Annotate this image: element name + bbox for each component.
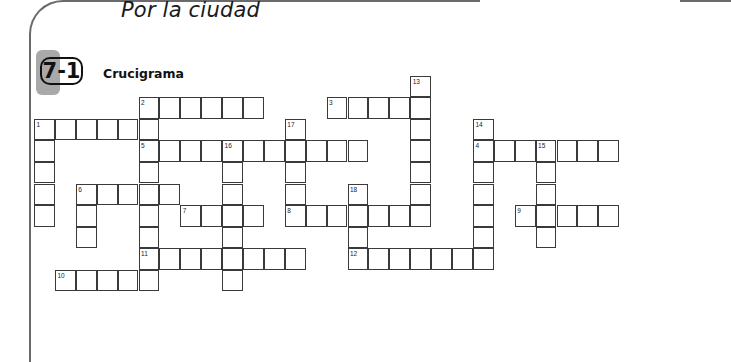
crossword-cell[interactable] [159, 97, 180, 119]
crossword-cell[interactable] [536, 162, 557, 184]
crossword-cell[interactable] [348, 205, 369, 227]
crossword-cell[interactable] [368, 205, 389, 227]
crossword-cell[interactable] [348, 227, 369, 249]
crossword-cell[interactable] [118, 184, 139, 206]
crossword-cell[interactable] [285, 248, 306, 270]
crossword-cell[interactable] [285, 162, 306, 184]
crossword-cell[interactable] [327, 140, 348, 162]
crossword-cell[interactable] [76, 205, 97, 227]
crossword-cell[interactable] [180, 248, 201, 270]
crossword-cell[interactable] [180, 140, 201, 162]
clue-number: 5 [141, 143, 145, 150]
crossword-cell[interactable] [264, 140, 285, 162]
crossword-cell[interactable] [222, 227, 243, 249]
crossword-cell[interactable] [598, 140, 619, 162]
crossword-cell[interactable] [97, 184, 118, 206]
crossword-cell[interactable] [410, 119, 431, 141]
clue-number: 9 [517, 208, 521, 215]
clue-number: 13 [413, 79, 420, 86]
crossword-cell[interactable] [76, 119, 97, 141]
crossword-cell[interactable] [243, 140, 264, 162]
crossword-cell[interactable] [473, 227, 494, 249]
crossword-cell[interactable] [410, 184, 431, 206]
crossword-cell[interactable] [473, 162, 494, 184]
crossword-cell[interactable] [494, 140, 515, 162]
crossword-cell[interactable] [368, 97, 389, 119]
crossword-cell[interactable] [139, 227, 160, 249]
crossword-cell[interactable] [452, 248, 473, 270]
crossword-cell[interactable] [389, 205, 410, 227]
crossword-cell[interactable] [410, 162, 431, 184]
crossword-cell[interactable] [76, 227, 97, 249]
clue-number: 7 [183, 208, 187, 215]
crossword-cell[interactable] [34, 184, 55, 206]
crossword-cell[interactable] [222, 205, 243, 227]
crossword-cell[interactable] [389, 97, 410, 119]
crossword-cell[interactable] [34, 205, 55, 227]
crossword-cell[interactable] [473, 248, 494, 270]
crossword-cell[interactable] [222, 97, 243, 119]
crossword-cell[interactable] [222, 162, 243, 184]
crossword-cell[interactable] [222, 270, 243, 292]
crossword-cell[interactable] [598, 205, 619, 227]
crossword-cell[interactable] [55, 119, 76, 141]
crossword-cell[interactable] [118, 270, 139, 292]
crossword-cell[interactable] [118, 119, 139, 141]
clue-number: 6 [78, 187, 82, 194]
crossword-cell[interactable] [515, 140, 536, 162]
clue-number: 12 [350, 251, 357, 258]
crossword-cell[interactable] [327, 205, 348, 227]
crossword-cell[interactable] [410, 248, 431, 270]
crossword-cell[interactable] [431, 248, 452, 270]
crossword-cell[interactable] [97, 270, 118, 292]
crossword-cell[interactable] [159, 140, 180, 162]
crossword-cell[interactable] [201, 205, 222, 227]
crossword-cell[interactable] [306, 205, 327, 227]
crossword-cell[interactable] [201, 97, 222, 119]
crossword-cell[interactable] [536, 227, 557, 249]
clue-number: 8 [287, 208, 291, 215]
crossword-cell[interactable] [557, 140, 578, 162]
clue-number: 2 [141, 100, 145, 107]
crossword-cell[interactable] [139, 162, 160, 184]
crossword-cell[interactable] [180, 97, 201, 119]
crossword-cell[interactable] [536, 205, 557, 227]
crossword-cell[interactable] [201, 248, 222, 270]
crossword-cell[interactable] [410, 140, 431, 162]
crossword-cell[interactable] [577, 140, 598, 162]
crossword-cell[interactable] [201, 140, 222, 162]
crossword-cell[interactable] [139, 119, 160, 141]
crossword-cell[interactable] [34, 162, 55, 184]
crossword-cell[interactable] [159, 248, 180, 270]
clue-number: 3 [329, 100, 333, 107]
crossword-cell[interactable] [473, 205, 494, 227]
crossword-cell[interactable] [76, 270, 97, 292]
clue-number: 14 [475, 122, 482, 129]
crossword-cell[interactable] [139, 205, 160, 227]
crossword-cell[interactable] [410, 205, 431, 227]
crossword-cell[interactable] [348, 140, 369, 162]
crossword-cell[interactable] [536, 184, 557, 206]
crossword-cell[interactable] [222, 184, 243, 206]
crossword-cell[interactable] [243, 97, 264, 119]
crossword-cell[interactable] [348, 97, 369, 119]
crossword-cell[interactable] [243, 248, 264, 270]
crossword-cell[interactable] [222, 248, 243, 270]
crossword-cell[interactable] [159, 184, 180, 206]
crossword-cell[interactable] [97, 119, 118, 141]
crossword-cell[interactable] [577, 205, 598, 227]
crossword-cell[interactable] [264, 248, 285, 270]
crossword-cell[interactable] [285, 184, 306, 206]
crossword-cell[interactable] [410, 97, 431, 119]
crossword-cell[interactable] [139, 270, 160, 292]
crossword-cell[interactable] [557, 205, 578, 227]
crossword-cell[interactable] [306, 140, 327, 162]
crossword-cell[interactable] [285, 140, 306, 162]
crossword-cell[interactable] [389, 248, 410, 270]
crossword-cell[interactable] [368, 248, 389, 270]
crossword-cell[interactable] [473, 184, 494, 206]
crossword-cell[interactable] [243, 205, 264, 227]
crossword-cell[interactable] [139, 184, 160, 206]
clue-number: 1 [37, 122, 41, 129]
crossword-cell[interactable] [34, 140, 55, 162]
